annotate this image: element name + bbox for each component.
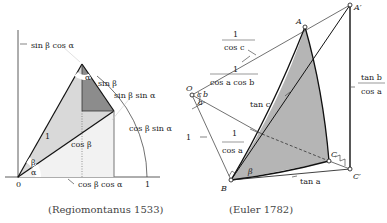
- line-O-B: [192, 95, 231, 180]
- label-beta-euler: β: [247, 167, 253, 176]
- pointer: [68, 179, 74, 184]
- frac-tanb-den: cos a: [361, 87, 382, 96]
- label-angle-b: b: [203, 90, 208, 99]
- frac-cosa-den: cos a: [222, 146, 243, 155]
- label-one-axis: 1: [145, 180, 150, 189]
- frac-cosa-num: 1: [232, 129, 237, 138]
- frac-cos-c-den: cos c: [224, 43, 245, 52]
- euler-figure: O A A′ B C C′ 1 cos c 1 cos a cos b tan …: [186, 3, 385, 215]
- frac-tanb-num: tan b: [361, 73, 382, 82]
- caption-euler: (Euler 1782): [229, 204, 293, 215]
- point-Cprime: [348, 167, 352, 171]
- label-sin-b: sin β: [98, 79, 117, 88]
- frac-cos-c-num: 1: [233, 30, 238, 39]
- label-one-hyp: 1: [45, 132, 50, 141]
- point-C: [327, 159, 331, 163]
- label-cos-b-sin-a: cos β sin α: [129, 124, 172, 133]
- point-B: [229, 178, 233, 182]
- label-A: A: [295, 17, 302, 26]
- label-one: 1: [186, 133, 191, 142]
- label-cos-b-cos-a: cos β cos α: [78, 180, 123, 189]
- label-alpha-top: α: [85, 73, 91, 82]
- frac-cosacosb-num: 1: [233, 65, 238, 74]
- label-sin-b-sin-a: sin β sin α: [114, 91, 156, 100]
- line-C-Cprime: [329, 161, 350, 169]
- right-angle-Cprime: [340, 159, 345, 166]
- pointer: [242, 56, 250, 62]
- pointer: [248, 50, 256, 55]
- label-O: O: [186, 84, 193, 93]
- caption-regiomontanus: (Regiomontanus 1533): [48, 204, 164, 215]
- spherical-triangle-light: [231, 27, 329, 180]
- point-Aprime: [348, 3, 352, 7]
- label-origin: 0: [16, 180, 21, 189]
- point-O: [190, 93, 194, 97]
- label-Aprime: A′: [353, 3, 362, 12]
- pointer: [292, 176, 297, 177]
- label-tan-a: tan a: [300, 177, 321, 186]
- label-C: C: [331, 150, 337, 159]
- label-cos-b: cos β: [71, 140, 92, 149]
- label-alpha: α: [31, 168, 37, 177]
- frac-cosacosb-den: cos a cos b: [210, 78, 254, 87]
- point-A: [303, 25, 307, 29]
- regiomontanus-figure: sin β cos α α sin β sin β sin α 1 cos β …: [5, 30, 172, 215]
- label-sin-b-cos-a: sin β cos α: [31, 41, 74, 50]
- label-B: B: [220, 184, 227, 193]
- diagram-canvas: sin β cos α α sin β sin β sin α 1 cos β …: [0, 0, 387, 223]
- label-tan-c: tan c: [250, 100, 271, 109]
- label-angle-a: a: [198, 98, 203, 107]
- label-Cprime: C′: [353, 172, 361, 181]
- label-beta: β: [31, 158, 36, 167]
